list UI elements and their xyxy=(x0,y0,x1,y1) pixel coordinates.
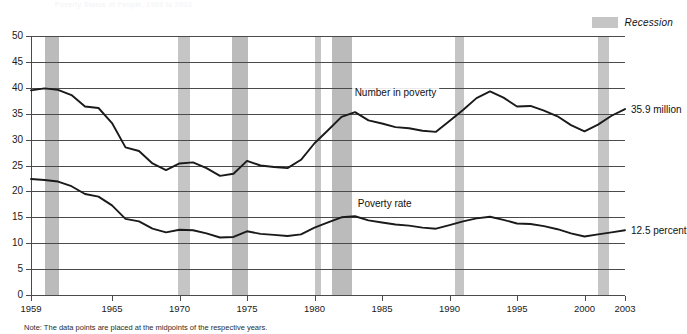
y-axis-tick xyxy=(26,140,31,141)
series-line xyxy=(31,179,625,238)
x-axis-tick-label: 1990 xyxy=(439,304,460,314)
x-axis-tick xyxy=(112,296,113,301)
x-axis-tick-label: 1995 xyxy=(506,304,527,314)
y-axis-tick-label: 0 xyxy=(17,290,23,300)
y-axis-tick-label: 30 xyxy=(12,135,23,145)
series-label: Poverty rate xyxy=(355,198,415,209)
y-axis-tick xyxy=(26,88,31,89)
x-axis-tick xyxy=(180,296,181,301)
y-axis-tick-label: 25 xyxy=(12,161,23,171)
x-axis-tick xyxy=(382,296,383,301)
y-axis-tick-label: 20 xyxy=(12,186,23,196)
figure-note: Note: The data points are placed at the … xyxy=(24,323,267,332)
chart-legend: Recession xyxy=(592,17,674,28)
x-axis-tick-label: 1959 xyxy=(20,304,41,314)
y-axis-tick xyxy=(26,217,31,218)
y-axis-tick-label: 35 xyxy=(12,109,23,119)
x-axis-tick xyxy=(517,296,518,301)
plot-area: 05101520253035404550 Number in povertyPo… xyxy=(31,36,625,295)
legend-label-recession: Recession xyxy=(625,17,674,28)
end-value-label: 35.9 million xyxy=(631,105,682,115)
x-axis-tick-label: 2000 xyxy=(574,304,595,314)
x-axis-tick-label: 1985 xyxy=(371,304,392,314)
y-axis-tick-label: 5 xyxy=(17,264,23,274)
series-label: Number in poverty xyxy=(352,87,440,98)
x-axis-tick-label: 1965 xyxy=(101,304,122,314)
y-axis-tick xyxy=(26,243,31,244)
x-axis-tick xyxy=(31,296,32,301)
series-lines xyxy=(31,36,625,295)
y-axis-tick xyxy=(26,36,31,37)
y-axis-tick-label: 10 xyxy=(12,238,23,248)
y-axis-tick-label: 45 xyxy=(12,57,23,67)
x-axis-labels: 1959196519701975198019851990199520002003 xyxy=(31,296,625,320)
y-axis-tick xyxy=(26,62,31,63)
end-value-label: 12.5 percent xyxy=(631,226,687,236)
x-axis-tick xyxy=(450,296,451,301)
faint-header-text: Poverty Status of People, 1959 to 2003 xyxy=(55,1,192,8)
x-axis-tick-label: 2003 xyxy=(614,304,635,314)
y-axis-tick xyxy=(26,269,31,270)
x-axis-tick xyxy=(315,296,316,301)
y-axis-tick-label: 50 xyxy=(12,31,23,41)
legend-swatch-recession xyxy=(592,17,618,28)
x-axis-tick-label: 1980 xyxy=(304,304,325,314)
y-axis-tick xyxy=(26,114,31,115)
y-axis-tick xyxy=(26,191,31,192)
x-axis-tick-label: 1975 xyxy=(236,304,257,314)
series-line xyxy=(31,88,625,176)
y-axis-tick-label: 40 xyxy=(12,83,23,93)
y-axis-tick-label: 15 xyxy=(12,212,23,222)
y-axis-tick xyxy=(26,166,31,167)
x-axis-tick-label: 1970 xyxy=(169,304,190,314)
x-axis-tick xyxy=(247,296,248,301)
x-axis-tick xyxy=(625,296,626,301)
x-axis-tick xyxy=(585,296,586,301)
